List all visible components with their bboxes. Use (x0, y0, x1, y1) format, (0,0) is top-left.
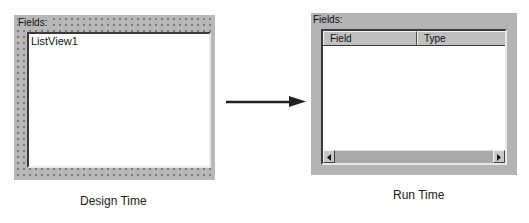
listview-header: Field Type (323, 31, 505, 46)
horizontal-scrollbar[interactable] (323, 150, 505, 163)
run-time-form: Fields: Field Type (311, 13, 517, 175)
listview-runtime[interactable]: Field Type (321, 29, 507, 165)
column-header-type[interactable]: Type (417, 31, 505, 45)
scroll-right-button[interactable] (493, 150, 505, 163)
scroll-left-button[interactable] (323, 150, 335, 163)
design-time-form: Fields: ListView1 (14, 15, 215, 180)
scrollbar-track[interactable] (335, 150, 493, 163)
listview-design-placeholder[interactable]: ListView1 (27, 32, 211, 168)
scroll-right-arrow-icon (497, 154, 502, 161)
scroll-left-arrow-icon (327, 154, 332, 161)
listview-name: ListView1 (31, 35, 78, 47)
design-time-caption: Design Time (80, 194, 147, 208)
column-header-field[interactable]: Field (323, 31, 417, 45)
fields-group-label: Fields: (313, 14, 344, 25)
right-arrow-icon (225, 95, 307, 109)
run-time-caption: Run Time (393, 188, 444, 202)
fields-group-label: Fields: (18, 17, 49, 28)
